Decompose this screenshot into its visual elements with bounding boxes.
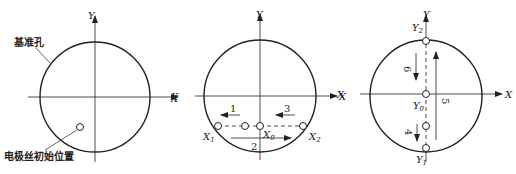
step-1-label: 1 — [230, 103, 236, 114]
label-x2: X2 — [308, 131, 321, 144]
panel-y-centering: Y X X Y2 Y0 Y1 6 5 4 — [336, 9, 513, 167]
x-axis-label-left: X — [336, 89, 345, 100]
point-start — [423, 123, 430, 130]
step-3-label: 3 — [284, 103, 290, 114]
label-y2: Y2 — [412, 22, 424, 35]
label-x0: X0 — [262, 129, 275, 142]
y-axis-label: Y — [256, 9, 264, 20]
label-y0: Y0 — [413, 100, 425, 113]
point-y2 — [423, 38, 430, 45]
x-axis-label-right: X — [504, 89, 513, 100]
point-y1 — [423, 145, 430, 152]
y-axis-label: Y — [423, 9, 431, 20]
centering-diagram: Y X 基准孔 电极丝初始位置 Y X X X1 X0 X2 1 3 2 Y — [0, 0, 516, 174]
wire-initial-point — [77, 124, 84, 131]
reference-hole-leader-line — [36, 48, 50, 63]
point-y0 — [423, 91, 430, 98]
label-x1: X1 — [202, 131, 215, 144]
panel-x-centering: Y X X X1 X0 X2 1 3 2 — [170, 9, 347, 160]
step-4-label: 4 — [403, 129, 414, 135]
panel-initial-position: Y X 基准孔 电极丝初始位置 — [4, 10, 179, 162]
reference-hole-label: 基准孔 — [13, 36, 44, 48]
label-y1: Y1 — [416, 154, 427, 167]
point-x2 — [300, 123, 307, 130]
point-x1 — [215, 123, 222, 130]
point-start — [242, 123, 249, 130]
step-5-label: 5 — [440, 98, 451, 104]
x-axis-label-left: X — [170, 91, 179, 102]
step-2-label: 2 — [251, 141, 257, 152]
wire-initial-position-label: 电极丝初始位置 — [4, 150, 74, 162]
step-6-label: 6 — [402, 66, 413, 72]
